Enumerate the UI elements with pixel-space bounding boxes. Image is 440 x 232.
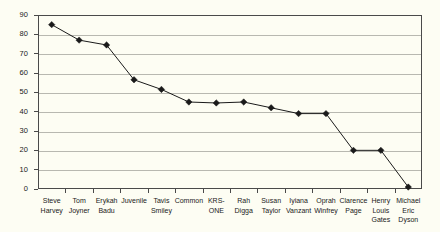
x-tick-label-line: Dyson xyxy=(385,215,431,225)
x-tick-mark xyxy=(175,189,176,193)
x-tick-label-line: Michael xyxy=(385,196,431,206)
y-tick-label: 70 xyxy=(19,50,28,58)
y-tick-mark xyxy=(34,92,38,93)
y-tick-label: 30 xyxy=(19,127,28,135)
gridline xyxy=(39,54,421,55)
x-tick-label: MichaelEricDyson xyxy=(385,196,431,225)
y-tick-label: 0 xyxy=(24,185,28,193)
gridline xyxy=(39,35,421,36)
y-tick-label: 90 xyxy=(19,11,28,19)
x-tick-label-line: Badu xyxy=(84,206,130,216)
x-tick-mark xyxy=(65,189,66,193)
x-tick-mark xyxy=(367,189,368,193)
x-tick-mark xyxy=(203,189,204,193)
y-tick-label: 10 xyxy=(19,166,28,174)
y-tick-label: 40 xyxy=(19,108,28,116)
y-tick-mark xyxy=(34,15,38,16)
y-tick-mark xyxy=(34,131,38,132)
x-tick-mark xyxy=(257,189,258,193)
gridline xyxy=(39,93,421,94)
plot-area xyxy=(38,15,422,189)
gridline xyxy=(39,112,421,113)
x-tick-mark xyxy=(395,189,396,193)
gridline xyxy=(39,151,421,152)
y-tick-mark xyxy=(34,34,38,35)
x-tick-mark xyxy=(340,189,341,193)
x-tick-mark xyxy=(312,189,313,193)
y-tick-mark xyxy=(34,53,38,54)
x-tick-mark xyxy=(120,189,121,193)
gridline xyxy=(39,170,421,171)
y-tick-label: 50 xyxy=(19,89,28,97)
y-tick-label: 20 xyxy=(19,147,28,155)
x-tick-label-line: Smiley xyxy=(138,206,184,216)
y-tick-mark xyxy=(34,73,38,74)
gridline xyxy=(39,132,421,133)
x-tick-mark xyxy=(285,189,286,193)
y-tick-mark xyxy=(34,169,38,170)
gridline xyxy=(39,74,421,75)
x-tick-mark xyxy=(148,189,149,193)
x-axis: SteveHarveyTomJoynerErykahBaduJuvenileTa… xyxy=(0,196,440,232)
y-tick-mark xyxy=(34,150,38,151)
x-tick-mark xyxy=(230,189,231,193)
x-tick-label-line: Eric xyxy=(385,206,431,216)
chart-container: 0102030405060708090 SteveHarveyTomJoyner… xyxy=(0,0,440,232)
y-tick-mark xyxy=(34,111,38,112)
y-tick-mark xyxy=(34,189,38,190)
y-tick-label: 80 xyxy=(19,31,28,39)
y-tick-label: 60 xyxy=(19,69,28,77)
x-tick-mark xyxy=(93,189,94,193)
